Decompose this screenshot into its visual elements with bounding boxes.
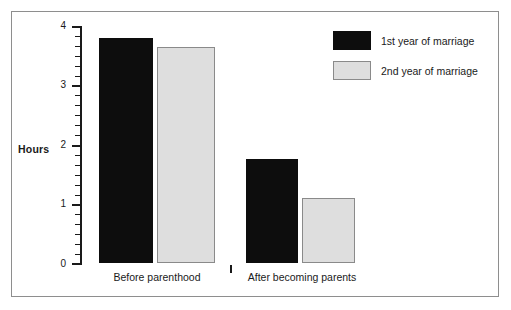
x-category-label-after-becoming-parents: After becoming parents [240, 271, 364, 283]
bar-after-parents-1st-year [246, 159, 298, 263]
y-minor-tick [75, 224, 81, 225]
y-axis-title: Hours [18, 143, 49, 155]
x-category-label-before-parenthood: Before parenthood [97, 271, 217, 283]
y-minor-tick [75, 95, 81, 96]
y-tick-0 [72, 263, 81, 265]
y-minor-tick [75, 234, 81, 235]
legend-swatch-light-icon [333, 61, 371, 80]
legend-label-2nd-year: 2nd year of marriage [381, 65, 478, 77]
y-minor-tick [75, 115, 81, 116]
y-minor-tick [75, 105, 81, 106]
legend-label-1st-year: 1st year of marriage [381, 35, 474, 47]
y-minor-tick [75, 46, 81, 47]
y-minor-tick [75, 36, 81, 37]
y-minor-tick [75, 244, 81, 245]
y-minor-tick [75, 214, 81, 215]
y-tick-label-4: 4 [44, 21, 66, 31]
y-minor-tick [75, 66, 81, 67]
y-tick-3 [72, 85, 81, 87]
y-minor-tick [75, 135, 81, 136]
plot-area: 4 3 2 1 0 Hours B [0, 0, 511, 310]
y-tick-4 [72, 26, 81, 28]
y-minor-tick [75, 155, 81, 156]
bar-before-parenthood-2nd-year [157, 47, 215, 263]
bar-before-parenthood-1st-year [99, 38, 153, 263]
y-minor-tick [75, 185, 81, 186]
y-minor-tick [75, 254, 81, 255]
y-tick-2 [72, 145, 81, 147]
y-minor-tick [75, 56, 81, 57]
legend-swatch-dark-icon [333, 31, 371, 50]
y-minor-tick [75, 125, 81, 126]
x-tick-group-divider [230, 265, 232, 273]
y-minor-tick [75, 175, 81, 176]
y-tick-label-1: 1 [44, 199, 66, 209]
bar-after-parents-2nd-year [302, 198, 355, 263]
y-minor-tick [75, 76, 81, 77]
bar-chart-figure: 4 3 2 1 0 Hours B [0, 0, 511, 310]
y-tick-label-0: 0 [44, 259, 66, 269]
y-minor-tick [75, 165, 81, 166]
y-tick-label-3: 3 [44, 80, 66, 90]
y-minor-tick [75, 195, 81, 196]
y-tick-1 [72, 204, 81, 206]
